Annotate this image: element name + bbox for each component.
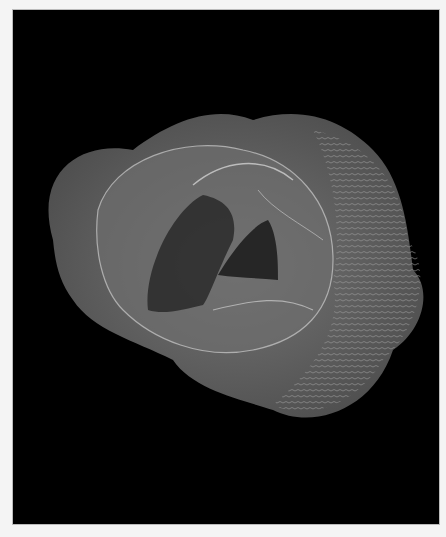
surface-render <box>13 10 441 526</box>
render-panel <box>12 9 440 525</box>
